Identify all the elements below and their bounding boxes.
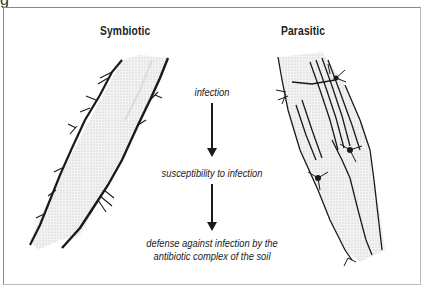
- flow-step-defense-line1: defense against infection by the: [144, 237, 280, 250]
- flow-step-infection: infection: [170, 86, 255, 99]
- symbiotic-root-icon: [30, 55, 168, 250]
- down-arrow-icon: [207, 103, 217, 157]
- parasitic-root-icon: [276, 52, 385, 266]
- flow-step-defense-line2: antibiotic complex of the soil: [144, 250, 280, 263]
- down-arrow-icon: [207, 184, 217, 231]
- flow-step-susceptibility: susceptibility to infection: [144, 167, 280, 180]
